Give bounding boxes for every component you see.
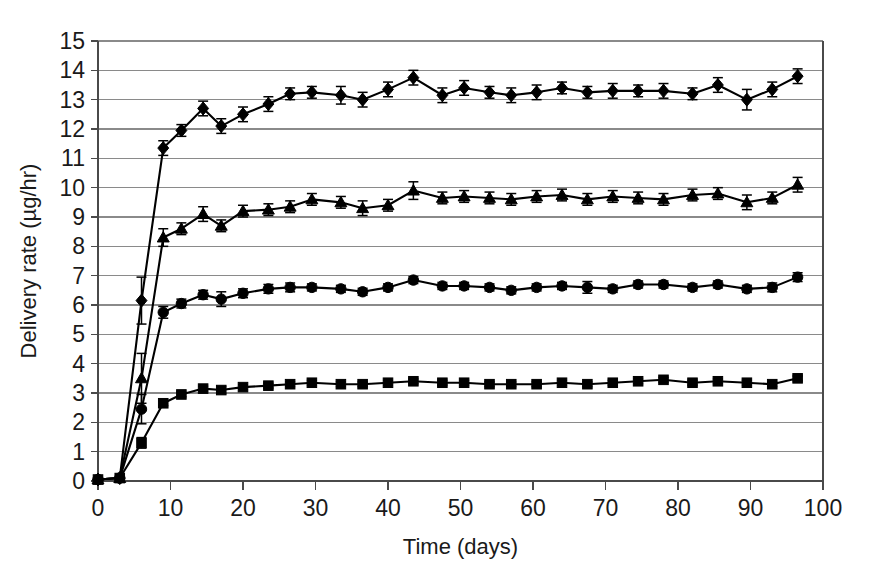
data-point-triangle [407,185,419,195]
data-point-square [742,378,752,388]
data-point-triangle [766,192,778,202]
y-tick-label: 4 [72,351,85,377]
data-point-triangle [382,199,394,209]
data-point-square [713,376,723,386]
data-point-diamond [712,79,723,92]
series-triangle [92,177,804,484]
x-tick-label: 20 [230,495,256,521]
data-point-circle [713,279,723,289]
series-polyline [98,185,798,480]
delivery-rate-line-chart: 0123456789101112131415 01020304050607080… [0,0,881,564]
data-point-square [438,378,448,388]
data-point-circle [792,272,802,282]
data-point-circle [307,282,317,292]
data-point-circle [198,290,208,300]
data-point-square [93,475,103,485]
data-point-circle [383,282,393,292]
data-point-diamond [383,83,394,96]
y-tick-label: 1 [72,439,85,465]
x-tick-label: 80 [665,495,691,521]
data-point-circle [531,282,541,292]
x-tick-label: 60 [520,495,546,521]
data-point-circle [336,284,346,294]
y-tick-label: 11 [61,145,85,171]
x-tick-label: 90 [738,495,764,521]
data-point-circle [285,282,295,292]
y-tick-label: 7 [72,263,85,289]
data-point-diamond [607,84,618,97]
data-point-square [198,384,208,394]
data-point-circle [437,281,447,291]
data-point-square [158,398,168,408]
data-point-square [358,379,368,389]
y-tick-label: 8 [72,233,85,259]
data-point-square [608,378,618,388]
data-point-square [793,374,803,384]
x-tick-label: 70 [593,495,619,521]
data-point-triangle [175,223,187,233]
data-point-triangle [157,232,169,242]
data-point-square [285,379,295,389]
data-point-square [216,385,226,395]
data-point-circle [238,288,248,298]
y-tick-label: 12 [59,116,85,142]
data-point-square [238,382,248,392]
data-point-circle [633,279,643,289]
data-point-square [506,379,516,389]
data-point-circle [608,284,618,294]
data-point-diamond [459,81,470,94]
x-axis-title: Time (days) [403,534,518,559]
data-point-circle [658,279,668,289]
chart-container: 0123456789101112131415 01020304050607080… [0,0,881,564]
data-point-circle [216,294,226,304]
data-point-square [409,376,419,386]
data-point-diamond [767,83,778,96]
x-tick-label: 0 [92,495,105,521]
data-point-square [688,378,698,388]
x-tick-label: 10 [158,495,184,521]
data-point-diamond [741,93,752,106]
y-tick-label: 15 [59,28,85,54]
data-point-square [659,375,669,385]
data-point-square [459,378,469,388]
data-point-diamond [357,93,368,106]
data-point-circle [408,275,418,285]
y-tick-label: 5 [72,321,85,347]
data-point-diamond [306,86,317,99]
y-tick-label: 14 [59,57,85,83]
x-tick-label: 50 [448,495,474,521]
data-point-triangle [136,372,148,382]
data-point-square [532,379,542,389]
data-point-circle [767,282,777,292]
data-point-diamond [633,84,644,97]
data-point-triangle [197,208,209,218]
data-point-diamond [285,87,296,100]
y-tick-label: 9 [72,204,85,230]
data-point-square [177,390,187,400]
y-tick-label: 10 [59,175,85,201]
data-point-circle [687,282,697,292]
data-point-circle [176,298,186,308]
data-point-square [307,378,317,388]
data-point-circle [582,282,592,292]
x-axis-tick-labels: 0102030405060708090100 [92,495,843,521]
data-point-circle [459,281,469,291]
data-point-diamond [531,86,542,99]
data-point-diamond [238,108,249,121]
series-diamond [93,69,804,486]
data-series [92,69,804,486]
data-point-diamond [484,86,495,99]
data-point-square [583,379,593,389]
data-point-square [485,379,495,389]
data-point-diamond [658,84,669,97]
series-square [93,374,802,485]
data-point-square [264,381,274,391]
y-axis-title: Delivery rate (µg/hr) [16,164,41,359]
data-point-diamond [792,70,803,83]
data-point-circle [484,282,494,292]
x-tick-label: 100 [804,495,842,521]
data-point-triangle [215,220,227,230]
data-point-diamond [557,81,568,94]
data-point-circle [263,284,273,294]
y-axis-tick-labels: 0123456789101112131415 [59,28,85,494]
